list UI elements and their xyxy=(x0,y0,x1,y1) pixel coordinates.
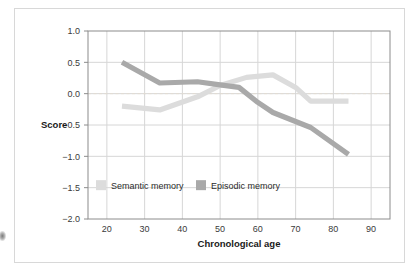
line-chart: 2030405060708090 1.00.50.0−0.5−1.0−1.5−2… xyxy=(0,0,420,276)
legend-label-semantic-memory: Semantic memory xyxy=(111,181,184,191)
x-tick-80: 80 xyxy=(328,224,338,234)
y-tick-0.5: 0.5 xyxy=(67,58,80,68)
x-tick-50: 50 xyxy=(215,224,225,234)
y-axis-title: Score xyxy=(41,119,67,130)
legend-swatch-semantic-memory xyxy=(96,180,106,190)
x-axis-tick-labels: 2030405060708090 xyxy=(102,224,376,234)
x-tick-20: 20 xyxy=(102,224,112,234)
legend-swatch-episodic-memory xyxy=(196,180,206,190)
y-tick-1.0: 1.0 xyxy=(67,26,80,36)
y-tick-−1.5: −1.5 xyxy=(62,183,80,193)
x-tick-60: 60 xyxy=(253,224,263,234)
x-axis-title: Chronological age xyxy=(198,238,281,249)
chart-svg: 2030405060708090 1.00.50.0−0.5−1.0−1.5−2… xyxy=(0,0,420,276)
y-tick-−2.0: −2.0 xyxy=(62,214,80,224)
y-tick-0.0: 0.0 xyxy=(67,89,80,99)
x-tick-70: 70 xyxy=(291,224,301,234)
x-tick-40: 40 xyxy=(177,224,187,234)
x-tick-30: 30 xyxy=(140,224,150,234)
y-tick-−1.0: −1.0 xyxy=(62,152,80,162)
edge-artifact xyxy=(0,231,6,241)
legend-label-episodic-memory: Episodic memory xyxy=(211,181,281,191)
x-tick-90: 90 xyxy=(366,224,376,234)
